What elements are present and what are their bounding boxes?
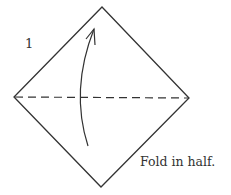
step-number: 1 (25, 36, 33, 51)
step-caption: Fold in half. (140, 154, 215, 169)
fold-arrow-icon (80, 29, 94, 146)
fold-line-dashed (15, 97, 188, 98)
